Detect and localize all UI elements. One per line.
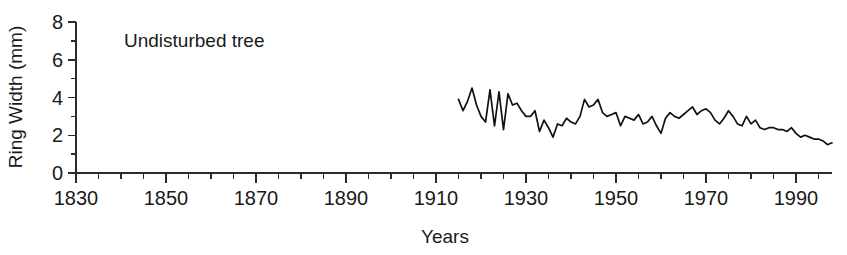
data-series-group [459,88,833,145]
x-tick-label: 1930 [504,187,549,209]
x-tick-label: 1950 [594,187,639,209]
x-axis: 183018501870189019101930195019701990 [54,173,832,209]
x-tick-label: 1850 [144,187,189,209]
x-tick-label: 1870 [234,187,279,209]
x-tick-label: 1830 [54,187,99,209]
y-tick-label: 2 [52,124,63,146]
y-axis-title: Ring Width (mm) [5,26,26,169]
x-axis-title: Years [421,226,469,247]
y-tick-label: 8 [52,11,63,33]
y-tick-label: 6 [52,49,63,71]
ring-width-chart-figure: 02468 1830185018701890191019301950197019… [0,0,847,255]
x-tick-label: 1890 [324,187,369,209]
x-tick-label: 1990 [774,187,819,209]
ring-width-line [459,88,833,145]
chart-annotation-undisturbed-tree: Undisturbed tree [124,30,264,51]
y-axis: 02468 [52,11,76,184]
x-tick-label: 1970 [684,187,729,209]
y-tick-label: 4 [52,87,63,109]
y-tick-label: 0 [52,162,63,184]
x-tick-label: 1910 [414,187,459,209]
chart-canvas: 02468 1830185018701890191019301950197019… [0,0,847,255]
